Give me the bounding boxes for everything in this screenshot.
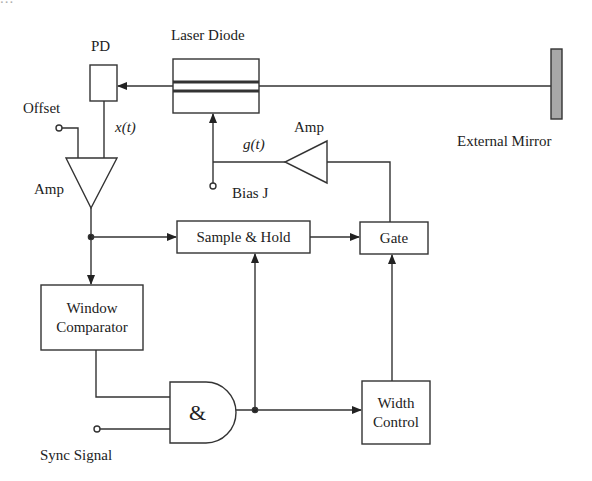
and-gate-label: & [170,382,225,443]
external-mirror [551,49,562,119]
bias-terminal [210,183,216,189]
width-control-line1: Width [378,394,415,413]
cropped-header-text: ... [0,0,14,7]
window-comparator-line2: Comparator [56,318,128,337]
offset-terminal [56,125,62,131]
window-comparator-label: Window Comparator [41,285,143,350]
amp-left-triangle [66,158,117,208]
label-pd: PD [91,39,110,54]
photodiode-box [90,65,117,101]
window-comparator-line1: Window [66,299,117,318]
gate-label: Gate [360,222,428,254]
label-x-t: x(t) [115,120,136,135]
width-control-line2: Control [373,413,419,432]
amp-right-triangle [285,141,327,183]
label-sync-signal: Sync Signal [40,448,112,463]
label-amp-right: Amp [294,120,324,135]
label-bias: Bias J [232,186,268,201]
sync-signal-terminal [94,426,100,432]
label-laser-diode: Laser Diode [171,28,245,43]
label-external-mirror: External Mirror [457,134,552,149]
label-g-t: g(t) [243,137,265,152]
label-amp-left: Amp [34,182,64,197]
sample-hold-label: Sample & Hold [177,221,310,253]
label-offset: Offset [23,101,60,116]
laser-diode-box [173,59,259,113]
width-control-label: Width Control [362,381,430,444]
